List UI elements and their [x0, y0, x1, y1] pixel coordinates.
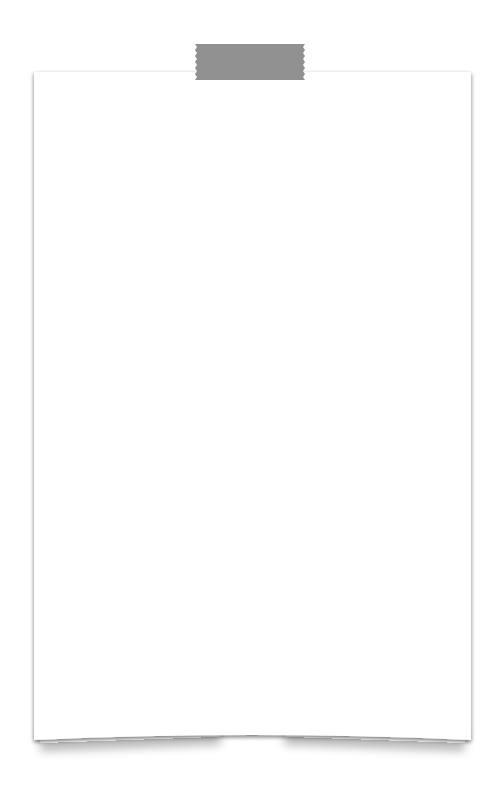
canvas [0, 0, 501, 792]
blank-note-paper [34, 72, 471, 738]
washi-tape-icon [195, 44, 305, 80]
note-content [34, 72, 471, 738]
